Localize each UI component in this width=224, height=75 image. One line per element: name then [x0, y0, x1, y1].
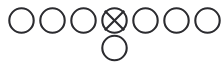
circle-outline [9, 8, 33, 32]
circle-outline [195, 8, 219, 32]
circle-outline [102, 36, 126, 60]
circle-outline [40, 8, 64, 32]
node-circle[interactable] [133, 8, 157, 32]
circle-outline [133, 8, 157, 32]
circle-outline [164, 8, 188, 32]
node-circle-marked[interactable] [102, 8, 126, 32]
node-circle[interactable] [195, 8, 219, 32]
node-circle[interactable] [71, 8, 95, 32]
circle-row-diagram [0, 0, 224, 75]
diagram-canvas [0, 0, 224, 75]
node-circle[interactable] [102, 36, 126, 60]
node-circle[interactable] [164, 8, 188, 32]
node-circle[interactable] [40, 8, 64, 32]
node-circle[interactable] [9, 8, 33, 32]
circle-outline [71, 8, 95, 32]
